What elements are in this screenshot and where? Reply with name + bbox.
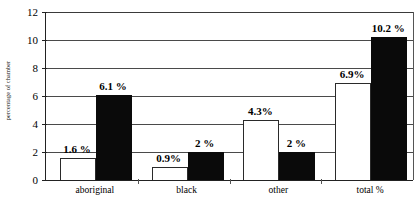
data-label-black-light: 0.9% (156, 153, 181, 164)
x-category-label-other: other (269, 186, 289, 196)
bar-chart-figure: percentage of chamber 024681012 1.6 %6.1… (0, 0, 419, 212)
gridline-12 (46, 12, 413, 13)
data-label-black-dark: 2 % (195, 138, 214, 149)
y-tick-label-4: 4 (33, 119, 39, 130)
bar-other-dark (279, 152, 315, 180)
x-category-label-black: black (176, 186, 197, 196)
x-tick-mark-1 (230, 179, 231, 184)
data-label-aboriginal-light: 1.6 % (63, 144, 91, 155)
y-tick-mark-6 (42, 96, 47, 97)
bar-total--light (335, 83, 371, 180)
bar-aboriginal-light (60, 158, 96, 180)
y-tick-mark-0 (42, 180, 47, 181)
y-tick-mark-10 (42, 40, 47, 41)
data-label-other-light: 4.3% (248, 106, 273, 117)
data-label-total--dark: 10.2 % (372, 23, 405, 34)
gridline-10 (46, 40, 413, 41)
y-tick-mark-4 (42, 124, 47, 125)
x-category-label-aboriginal: aboriginal (76, 186, 115, 196)
data-label-total--light: 6.9% (340, 69, 365, 80)
plot-right-border (413, 12, 414, 180)
y-tick-label-2: 2 (33, 147, 39, 158)
y-tick-label-10: 10 (27, 35, 38, 46)
data-label-other-dark: 2 % (287, 138, 306, 149)
y-tick-label-12: 12 (27, 7, 38, 18)
y-tick-label-0: 0 (33, 175, 39, 186)
x-category-label-total-: total % (357, 186, 384, 196)
y-axis-tick-labels: 024681012 (16, 0, 41, 212)
x-tick-mark-2 (321, 179, 322, 184)
y-axis-title: percentage of chamber (0, 0, 16, 180)
bar-aboriginal-dark (96, 95, 132, 180)
y-tick-mark-2 (42, 152, 47, 153)
y-tick-label-8: 8 (33, 63, 39, 74)
y-tick-label-6: 6 (33, 91, 39, 102)
bar-black-light (152, 167, 188, 180)
data-label-aboriginal-dark: 6.1 % (99, 81, 127, 92)
bar-other-light (243, 120, 279, 180)
bar-black-dark (188, 152, 224, 180)
bar-total--dark (371, 37, 407, 180)
y-tick-mark-12 (42, 12, 47, 13)
y-axis-title-text: percentage of chamber (5, 60, 12, 119)
x-tick-mark-0 (138, 179, 139, 184)
y-tick-mark-8 (42, 68, 47, 69)
plot-area (45, 12, 413, 181)
